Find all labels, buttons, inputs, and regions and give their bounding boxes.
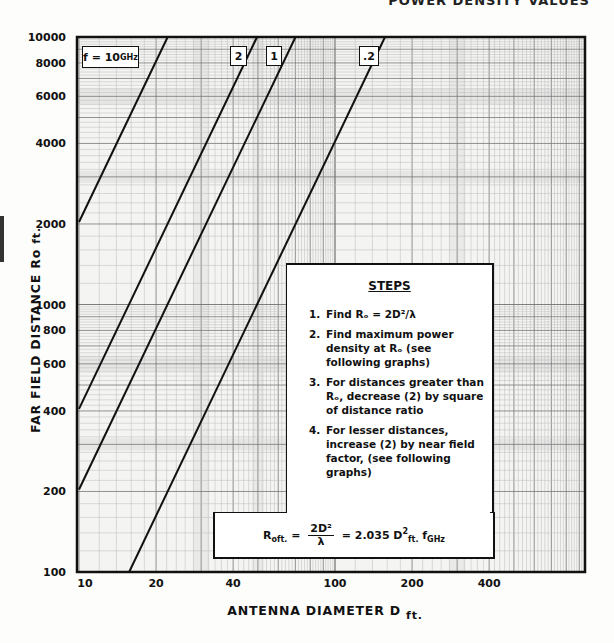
step-text: For lesser distances, increase (2) by ne…: [326, 423, 489, 479]
step-item: 4. For lesser distances, increase (2) by…: [309, 423, 489, 479]
y-tick-label: 8000: [35, 56, 66, 69]
formula-coefficient: 2.035 D: [355, 529, 403, 542]
step-text: Find maximum power density at Rₒ (see fo…: [326, 327, 489, 369]
y-tick-label: 1000: [35, 298, 66, 311]
x-axis-label: ANTENNA DIAMETER D ft.: [227, 603, 422, 618]
x-tick-label: 40: [225, 577, 240, 590]
formula-denominator: λ: [308, 536, 334, 548]
step-number: 4.: [309, 423, 326, 479]
formula-fraction: 2D² λ: [308, 523, 334, 548]
y-tick-label: 600: [43, 357, 66, 370]
x-axis-unit: ft.: [406, 609, 423, 622]
x-tick-label: 10: [77, 577, 92, 590]
formula-panel: Roft. = 2D² λ = 2.035 D2ft. fGHz: [213, 512, 495, 559]
y-tick-label: 2000: [35, 217, 66, 230]
x-tick-label: 100: [324, 577, 347, 590]
y-tick-label: 6000: [35, 90, 66, 103]
step-item: 1. Find Rₒ = 2D²/λ: [309, 307, 489, 321]
step-text: Find Rₒ = 2D²/λ: [326, 307, 416, 321]
far-field-formula: Roft. = 2D² λ = 2.035 D2ft. fGHz: [215, 523, 493, 548]
frequency-value: f = 10: [83, 51, 120, 64]
x-tick-label: 200: [401, 577, 424, 590]
y-tick-label: 10000: [28, 31, 66, 44]
y-tick-label: 4000: [35, 137, 66, 150]
y-axis-label-text: FAR FIELD DISTANCE Ro: [28, 249, 43, 433]
steps-title: STEPS: [287, 279, 492, 293]
steps-list: 1. Find Rₒ = 2D²/λ 2. Find maximum power…: [309, 307, 489, 485]
step-item: 3. For distances greater than Rₒ, decrea…: [309, 375, 489, 417]
frequency-legend-box: f = 10GHz: [82, 46, 139, 68]
y-tick-label: 200: [43, 485, 66, 498]
line-tag-2ghz: 2: [230, 46, 247, 66]
formula-equals: =: [291, 529, 300, 542]
steps-panel: STEPS 1. Find Rₒ = 2D²/λ 2. Find maximum…: [286, 263, 494, 515]
line-tag-1ghz: 1: [266, 46, 282, 66]
y-tick-label: 400: [43, 404, 66, 417]
step-number: 3.: [309, 375, 326, 417]
step-text: For distances greater than Rₒ, decrease …: [326, 375, 489, 417]
x-axis-label-text: ANTENNA DIAMETER D: [227, 603, 401, 618]
frequency-unit: GHz: [120, 53, 138, 62]
y-tick-label: 800: [43, 324, 66, 337]
step-item: 2. Find maximum power density at Rₒ (see…: [309, 327, 489, 369]
step-number: 2.: [309, 327, 326, 369]
y-axis-label: FAR FIELD DISTANCE Ro ft.: [28, 227, 43, 433]
formula-lhs-sub: oft.: [271, 535, 287, 544]
panel-join: [287, 510, 490, 515]
y-tick-label: 100: [43, 566, 66, 579]
formula-frequency-sub: GHz: [427, 535, 445, 544]
step-number: 1.: [309, 307, 326, 321]
formula-equals-2: =: [342, 529, 351, 542]
x-tick-label: 20: [148, 577, 163, 590]
line-tag-0-2ghz: .2: [359, 46, 379, 66]
x-tick-label: 400: [478, 577, 501, 590]
formula-coef-sub: ft.: [408, 535, 418, 544]
